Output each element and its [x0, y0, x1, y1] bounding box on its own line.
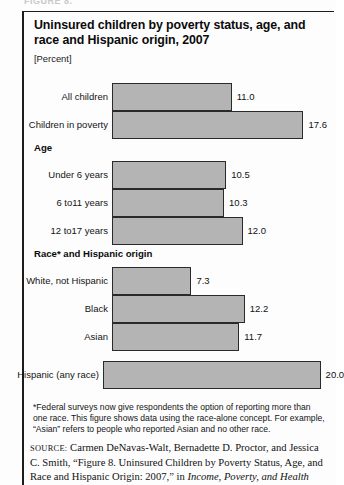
- bar-category-label: 12 to17 years: [50, 217, 112, 245]
- bar-category-label: Under 6 years: [48, 161, 112, 189]
- bar: [103, 361, 321, 389]
- bar-value-label: 12.2: [245, 295, 269, 323]
- bar: [112, 111, 303, 139]
- bar-row: Hispanic (any race)20.0: [0, 361, 336, 389]
- bar: [112, 161, 226, 189]
- source-line2: C. Smith, “Figure 8. Uninsured Children …: [30, 457, 323, 468]
- bar-row: 6 to11 years10.3: [0, 189, 336, 217]
- bar: [112, 189, 224, 217]
- bar-value-label: 20.0: [321, 361, 344, 389]
- bar-row: Under 6 years10.5: [0, 161, 336, 189]
- source-line1: Carmen DeNavas-Walt, Bernadette D. Proct…: [67, 442, 318, 453]
- bar-value-label: 17.6: [303, 111, 327, 139]
- bar-value-label: 10.3: [224, 189, 248, 217]
- bar: [112, 217, 243, 245]
- bar-value-label: 12.0: [243, 217, 267, 245]
- bar-category-label: Asian: [84, 323, 112, 351]
- source-line3-pre: Race and Hispanic Origin: 2007,” in: [30, 471, 187, 482]
- bar-row: All children11.0: [0, 83, 336, 111]
- bar-chart: All children11.0Children in poverty17.6A…: [0, 0, 336, 400]
- bar-value-label: 11.7: [239, 323, 262, 351]
- bar-category-label: White, not Hispanic: [26, 267, 112, 295]
- bar-row: Black12.2: [0, 295, 336, 323]
- group-heading: Age: [34, 142, 52, 153]
- bar: [112, 83, 232, 111]
- bar-value-label: 7.3: [191, 267, 209, 295]
- bar: [112, 323, 239, 351]
- bar-category-label: Black: [85, 295, 112, 323]
- group-heading: Race* and Hispanic origin: [34, 248, 152, 259]
- bar-row: 12 to17 years12.0: [0, 217, 336, 245]
- bar-value-label: 10.5: [226, 161, 250, 189]
- bar: [112, 295, 245, 323]
- bar-category-label: Children in poverty: [29, 111, 112, 139]
- bar-row: Asian11.7: [0, 323, 336, 351]
- bar-value-label: 11.0: [232, 83, 255, 111]
- bar-category-label: 6 to11 years: [56, 189, 112, 217]
- source-prefix: source:: [30, 444, 67, 453]
- source-publication-title: Income, Poverty, and Health: [187, 471, 309, 482]
- bar-category-label: All children: [62, 83, 112, 111]
- source-note: source: Carmen DeNavas-Walt, Bernadette …: [30, 441, 330, 485]
- bar-row: Children in poverty17.6: [0, 111, 336, 139]
- bar: [112, 267, 191, 295]
- footnote: *Federal surveys now give respondents th…: [33, 402, 325, 436]
- bar-category-label: Hispanic (any race): [17, 361, 103, 389]
- bar-row: White, not Hispanic7.3: [0, 267, 336, 295]
